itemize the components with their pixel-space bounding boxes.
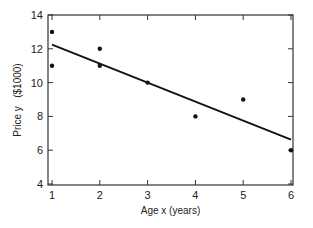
data-point (193, 114, 197, 118)
y-axis-label: Price y ($1000) (12, 63, 23, 136)
data-point (98, 63, 102, 67)
x-axis-label: Age x (years) (141, 205, 200, 216)
y-tick-label: 6 (37, 144, 43, 156)
x-tick-label: 6 (288, 189, 294, 201)
data-point (241, 97, 245, 101)
x-tick-label: 4 (192, 189, 198, 201)
y-tick-label: 10 (31, 77, 43, 89)
data-point (289, 148, 293, 152)
y-tick-label: 8 (37, 110, 43, 122)
regression-line (52, 45, 291, 140)
data-point (98, 47, 102, 51)
data-point (50, 63, 54, 67)
x-tick-label: 5 (240, 189, 246, 201)
y-tick-label: 12 (31, 43, 43, 55)
x-tick-label: 3 (145, 189, 151, 201)
scatter-chart: 123456468101214Age x (years)Price y ($10… (0, 0, 313, 228)
data-point (145, 80, 149, 84)
data-point (50, 30, 54, 34)
y-tick-label: 14 (31, 9, 43, 21)
x-tick-label: 1 (49, 189, 55, 201)
x-tick-label: 2 (97, 189, 103, 201)
y-tick-label: 4 (37, 178, 43, 190)
plot-frame (48, 15, 293, 185)
